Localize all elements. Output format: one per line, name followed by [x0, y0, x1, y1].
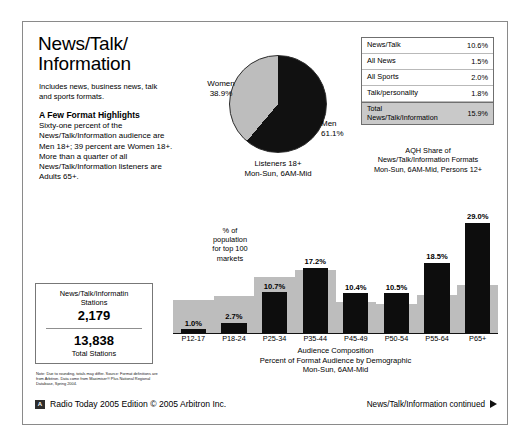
pie-label-women: Women 38.9%	[195, 79, 247, 99]
bar	[303, 268, 328, 333]
x-tick-label: P55-64	[417, 334, 458, 343]
bar-value-label: 18.5%	[417, 252, 458, 261]
aqh-row-value: 1.8%	[471, 89, 488, 98]
aqh-total-value: 15.9%	[468, 109, 488, 118]
bar-value-label: 10.5%	[376, 283, 417, 292]
aqh-share-table: News/Talk 10.6% All News 1.5% All Sports…	[361, 37, 494, 125]
bar	[424, 263, 449, 333]
pie-graphic	[229, 55, 327, 153]
source-footnote: Note: Due to rounding, totals may differ…	[36, 371, 164, 387]
highlights-body: Sixty-one percent of the News/Talk/Infor…	[39, 121, 179, 183]
audience-composition-chart: 1.0%2.7%10.7%17.2%10.4%10.5%18.5%29.0% %…	[173, 215, 498, 350]
x-tick-label: P35-44	[295, 334, 336, 343]
footer-left: A Radio Today 2005 Edition © 2005 Arbitr…	[35, 399, 226, 409]
stations-format-label: News/Talk/Informatin Stations	[40, 289, 148, 307]
bar	[384, 293, 409, 333]
highlights-heading: A Few Format Highlights	[39, 110, 179, 121]
aqh-row-label: Talk/personality	[367, 89, 418, 98]
x-tick-label: P12-17	[173, 334, 214, 343]
aqh-row-value: 2.0%	[471, 73, 488, 82]
aqh-table-caption: AQH Share of News/Talk/Information Forma…	[353, 146, 503, 174]
chart-plot-area: 1.0%2.7%10.7%17.2%10.4%10.5%18.5%29.0% %…	[173, 215, 498, 333]
table-row-total: Total News/Talk/Information 15.9%	[362, 102, 493, 124]
page-title: News/Talk/ Information	[38, 34, 131, 74]
pie-label-men: Men 61.1%	[321, 119, 361, 139]
table-row: Talk/personality 1.8%	[362, 86, 493, 102]
x-tick-label: P45-49	[336, 334, 377, 343]
footer-continued-link[interactable]: News/Talk/Information continued	[367, 400, 497, 409]
bar-value-label: 10.4%	[336, 283, 377, 292]
x-tick-label: P18-24	[214, 334, 255, 343]
bar-value-label: 1.0%	[173, 319, 214, 328]
pie-caption: Listeners 18+ Mon-Sun, 6AM-Mid	[203, 159, 353, 179]
bar-value-label: 17.2%	[295, 257, 336, 266]
bar-value-label: 29.0%	[457, 212, 498, 221]
bar	[221, 323, 246, 333]
chart-caption: Audience Composition Percent of Format A…	[173, 346, 498, 375]
aqh-row-label: All News	[367, 57, 396, 66]
x-tick-label: P65+	[457, 334, 498, 343]
footer-continued-text: News/Talk/Information continued	[367, 400, 485, 409]
bar	[465, 223, 490, 333]
bar-value-label: 2.7%	[214, 312, 255, 321]
bar	[262, 292, 287, 333]
bar-value-label: 10.7%	[254, 282, 295, 291]
table-row: News/Talk 10.6%	[362, 38, 493, 54]
aqh-total-label: Total News/Talk/Information	[367, 105, 438, 122]
stations-total-count: 13,838	[40, 333, 148, 349]
page-footer: A Radio Today 2005 Edition © 2005 Arbitr…	[35, 396, 497, 412]
stations-total-label: Total Stations	[40, 349, 148, 358]
report-page: News/Talk/ Information Includes news, bu…	[22, 21, 508, 425]
intro-text: Includes news, business news, talk and s…	[39, 82, 171, 102]
x-tick-label: P50-54	[376, 334, 417, 343]
arbitron-logo-icon: A	[35, 400, 45, 409]
arrow-right-icon	[490, 400, 497, 408]
divider	[46, 328, 142, 329]
aqh-row-value: 10.6%	[467, 41, 488, 50]
aqh-row-label: News/Talk	[367, 41, 401, 50]
gender-pie-chart: Women 38.9% Men 61.1% Listeners 18+ Mon-…	[203, 47, 353, 192]
population-note: % of population for top 100 markets	[199, 225, 261, 264]
aqh-row-label: All Sports	[367, 73, 399, 82]
stations-box: News/Talk/Informatin Stations 2,179 13,8…	[35, 283, 153, 364]
stations-format-count: 2,179	[40, 308, 148, 324]
x-axis-tick-labels: P12-17P18-24P25-34P35-44P45-49P50-54P55-…	[173, 334, 498, 346]
x-tick-label: P25-34	[254, 334, 295, 343]
bar	[343, 293, 368, 333]
aqh-row-value: 1.5%	[471, 57, 488, 66]
table-row: All Sports 2.0%	[362, 70, 493, 86]
table-row: All News 1.5%	[362, 54, 493, 70]
footer-edition-text: Radio Today 2005 Edition © 2005 Arbitron…	[50, 399, 226, 409]
